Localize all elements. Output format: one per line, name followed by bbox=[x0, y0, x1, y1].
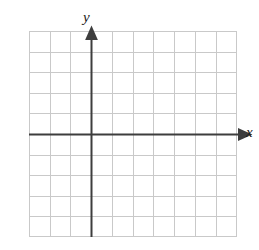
coordinate-plane-svg bbox=[0, 0, 259, 250]
x-axis-label: x bbox=[246, 125, 253, 140]
coordinate-grid-figure: y x bbox=[0, 0, 259, 250]
y-axis-label: y bbox=[83, 10, 90, 25]
